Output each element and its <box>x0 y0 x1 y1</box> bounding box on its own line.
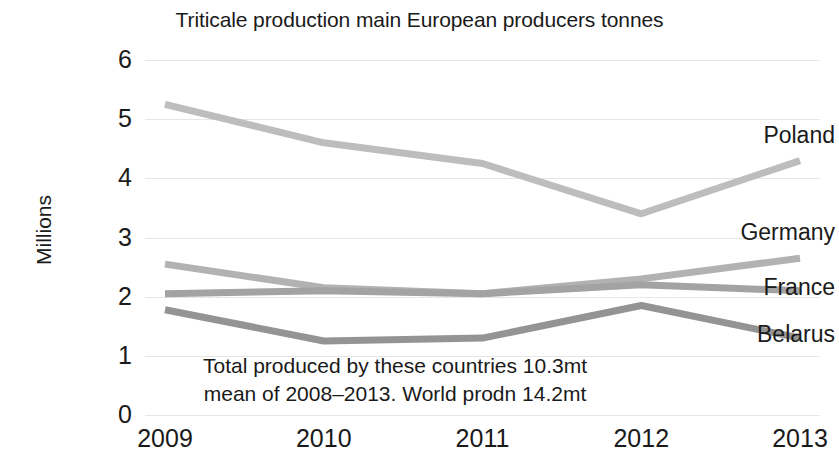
annotation-line-2: mean of 2008–2013. World prodn 14.2mt <box>160 380 630 408</box>
series-label-france: France <box>763 276 835 299</box>
series-line-belarus <box>165 306 800 342</box>
series-line-poland <box>165 104 800 213</box>
chart-annotation: Total produced by these countries 10.3mt… <box>160 352 630 408</box>
series-line-france <box>165 285 800 294</box>
chart-container: Triticale production main European produ… <box>0 0 839 473</box>
annotation-line-1: Total produced by these countries 10.3mt <box>160 352 630 380</box>
series-label-poland: Poland <box>763 124 835 147</box>
series-label-germany: Germany <box>740 221 835 244</box>
series-label-belarus: Belarus <box>757 323 835 346</box>
